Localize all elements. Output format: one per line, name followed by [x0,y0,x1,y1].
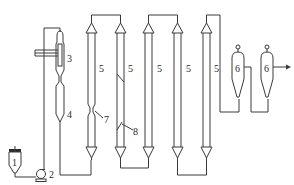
label-cyclone-1: 6 [235,63,240,74]
label-column-4: 5 [186,63,191,74]
column-1: 5 7 [86,23,109,160]
pipe-col1-col2 [92,15,121,23]
cyclone-2: 6 [261,45,273,97]
column-4: 5 [172,23,191,158]
feed-tank: 1 [9,146,21,177]
label-baffle: 8 [133,126,138,137]
column-2: 5 8 [115,23,138,158]
process-flow-diagram: 1 2 3 4 5 7 [0,0,294,185]
label-tank: 1 [12,157,17,168]
column-3: 5 [143,23,162,158]
label-heat-exchanger: 3 [67,53,72,64]
pump: 2 [36,169,54,182]
outlet-arrow-icon [273,65,291,70]
pipe-col4-col5 [178,158,207,175]
label-constriction: 7 [104,114,109,125]
label-column-2: 5 [128,63,133,74]
label-reactor: 4 [67,109,72,120]
label-column-3: 5 [157,63,162,74]
pipe-col3-col4 [149,15,178,23]
label-column-1: 5 [99,63,104,74]
column-5: 5 [201,23,219,158]
label-column-5: 5 [214,63,219,74]
cyclone-1: 6 [232,45,244,97]
pipe-col2-col3 [121,158,149,168]
label-pump: 2 [49,169,54,180]
leader-7 [95,111,103,118]
label-cyclone-2: 6 [264,63,269,74]
